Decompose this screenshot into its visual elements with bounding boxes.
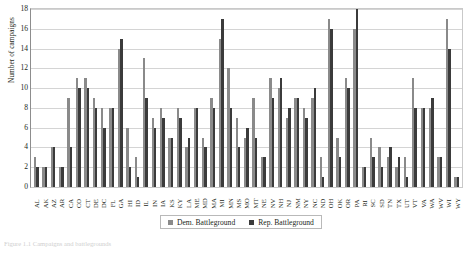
bar-group — [410, 9, 418, 187]
x-tick-label: MT — [251, 199, 258, 209]
x-tick-label: NE — [260, 199, 267, 208]
bar-group — [234, 9, 242, 187]
x-label-cell: CO — [74, 189, 82, 215]
bar-group — [393, 9, 401, 187]
bar — [87, 88, 89, 187]
bar-group — [267, 9, 275, 187]
bar-group — [209, 9, 217, 187]
bar — [314, 88, 316, 187]
bar-group — [419, 9, 427, 187]
bar — [431, 98, 433, 187]
x-label-cell: NE — [259, 189, 267, 215]
bar — [398, 157, 400, 187]
legend-label: Dem. Battleground — [177, 218, 235, 227]
x-tick-label: FL — [108, 200, 115, 208]
x-label-cell: DC — [99, 189, 107, 215]
bar — [255, 138, 257, 187]
bar-group — [49, 9, 57, 187]
bar — [179, 118, 181, 187]
x-tick-label: DC — [100, 199, 107, 208]
bar-group — [32, 9, 40, 187]
bar-group — [326, 9, 334, 187]
bar — [457, 177, 459, 187]
bar — [53, 147, 55, 187]
bar — [272, 98, 274, 187]
bar-group — [99, 9, 107, 187]
x-label-cell: OK — [335, 189, 343, 215]
x-label-cell: OH — [326, 189, 334, 215]
y-tick-label: 10 — [20, 84, 28, 92]
bar — [171, 138, 173, 187]
x-tick-label: VT — [411, 199, 418, 208]
bar — [204, 147, 206, 187]
x-label-cell: HI — [124, 189, 132, 215]
x-tick-label: ME — [192, 199, 199, 209]
bar-group — [167, 9, 175, 187]
bar — [103, 128, 105, 187]
bar — [213, 108, 215, 187]
x-tick-label: IA — [159, 200, 166, 207]
bar — [188, 138, 190, 187]
bar — [120, 39, 122, 187]
bar — [297, 98, 299, 187]
bar-group — [368, 9, 376, 187]
x-label-cell: MD — [200, 189, 208, 215]
y-tick-label: 0 — [24, 183, 28, 191]
x-tick-label: KS — [167, 199, 174, 207]
bar-group — [183, 9, 191, 187]
bar-group — [343, 9, 351, 187]
x-tick-label: HI — [125, 200, 132, 207]
x-tick-label: PA — [352, 200, 359, 208]
legend-item: Rep. Battleground — [249, 218, 314, 227]
x-tick-label: AR — [58, 199, 65, 208]
x-label-cell: GA — [116, 189, 124, 215]
x-label-cell: MT — [251, 189, 259, 215]
x-tick-label: IN — [150, 200, 157, 207]
x-tick-label: OR — [344, 199, 351, 208]
x-label-cell: WA — [427, 189, 435, 215]
bar — [95, 108, 97, 187]
x-tick-label: AK — [41, 199, 48, 209]
bar-group — [192, 9, 200, 187]
x-tick-label: VA — [419, 199, 426, 208]
x-tick-label: MN — [226, 198, 233, 209]
x-label-cell: UT — [402, 189, 410, 215]
x-tick-label: CA — [66, 199, 73, 208]
bar-group — [91, 9, 99, 187]
bar-group — [251, 9, 259, 187]
x-tick-label: MS — [234, 199, 241, 209]
bar — [305, 118, 307, 187]
x-tick-label: NM — [293, 198, 300, 209]
x-label-cell: ID — [133, 189, 141, 215]
bar-group — [284, 9, 292, 187]
x-tick-label: TX — [394, 199, 401, 208]
x-label-cell: DE — [91, 189, 99, 215]
x-tick-label: CO — [75, 199, 82, 208]
x-tick-label: NC — [310, 199, 317, 208]
x-tick-label: SC — [369, 199, 376, 207]
bar-group — [175, 9, 183, 187]
bar-group — [360, 9, 368, 187]
x-tick-label: DE — [92, 199, 99, 208]
x-label-cell: AZ — [49, 189, 57, 215]
bar-group — [133, 9, 141, 187]
x-tick-label: WI — [445, 199, 452, 207]
bar — [263, 157, 265, 187]
bar — [78, 88, 80, 187]
bar — [372, 157, 374, 187]
bar-group — [57, 9, 65, 187]
bar-group — [74, 9, 82, 187]
y-tick-label: 18 — [20, 5, 28, 13]
x-label-cell: MI — [217, 189, 225, 215]
bar — [330, 29, 332, 187]
bar — [414, 108, 416, 187]
x-tick-label: TN — [386, 199, 393, 208]
x-label-cell: PA — [351, 189, 359, 215]
legend-swatch-dem-icon — [168, 220, 173, 225]
x-tick-label: NJ — [285, 200, 292, 207]
x-tick-label: ND — [319, 199, 326, 209]
bar-group — [82, 9, 90, 187]
bar — [288, 108, 290, 187]
x-label-cell: MS — [234, 189, 242, 215]
x-tick-label: WA — [428, 198, 435, 208]
